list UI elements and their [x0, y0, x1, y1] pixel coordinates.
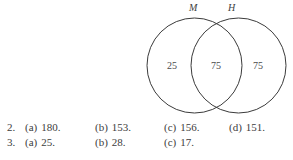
venn-diagram: M H 25 75 75: [140, 0, 293, 120]
answer-row-number: 3.: [7, 136, 15, 148]
answer-row: 3. (a)25. (b)28. (c)17.: [7, 136, 287, 151]
answer-part-value: 28.: [112, 136, 126, 148]
answer-part-letter: (d): [229, 121, 242, 133]
venn-count-right-only: 75: [245, 60, 271, 71]
venn-count-intersection: 75: [203, 60, 229, 71]
answer-part-value: 25.: [41, 136, 55, 148]
venn-label-right-set: H: [228, 2, 235, 13]
answer-part-value: 151.: [246, 121, 265, 133]
answer-part-letter: (c): [164, 136, 176, 148]
answer-item: (a)25.: [25, 136, 55, 148]
answer-item: (c)17.: [164, 136, 194, 148]
page-root: M H 25 75 75 2. (a)180. (b)153. (c)156. …: [0, 0, 293, 160]
answer-part-letter: (a): [25, 136, 37, 148]
answer-item: (b)28.: [95, 136, 126, 148]
answer-part-value: 156.: [180, 121, 199, 133]
answer-item: (a)180.: [25, 121, 60, 133]
answer-item: (b)153.: [95, 121, 131, 133]
answer-item: (c)156.: [164, 121, 199, 133]
answer-part-letter: (b): [95, 121, 108, 133]
answer-part-value: 180.: [41, 121, 60, 133]
venn-label-left-set: M: [189, 2, 198, 13]
answer-part-letter: (b): [95, 136, 108, 148]
answer-row-number: 2.: [7, 121, 15, 133]
answer-part-letter: (a): [25, 121, 37, 133]
answer-part-value: 17.: [180, 136, 194, 148]
answer-key: 2. (a)180. (b)153. (c)156. (d)151. 3. (a…: [7, 121, 287, 151]
answer-item: (d)151.: [229, 121, 265, 133]
answer-row: 2. (a)180. (b)153. (c)156. (d)151.: [7, 121, 287, 136]
answer-part-letter: (c): [164, 121, 176, 133]
answer-part-value: 153.: [112, 121, 131, 133]
venn-count-left-only: 25: [159, 60, 185, 71]
